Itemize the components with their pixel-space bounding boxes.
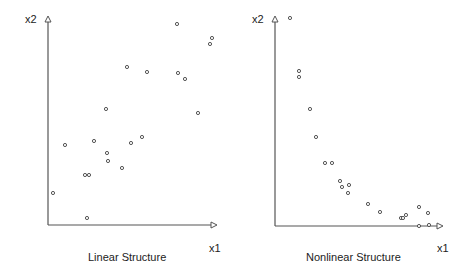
x-axis-arrow-icon <box>437 223 443 229</box>
nonlinear-structure-panel: x2 x1 Nonlinear Structure <box>0 0 469 278</box>
data-point <box>340 185 343 188</box>
data-point <box>417 205 420 208</box>
data-point <box>417 224 420 227</box>
data-point <box>314 135 317 138</box>
y-axis-arrow-icon <box>272 16 278 22</box>
data-point <box>426 211 429 214</box>
data-point <box>297 75 300 78</box>
data-point <box>347 183 350 186</box>
data-point <box>308 107 311 110</box>
chart-title: Nonlinear Structure <box>306 251 401 263</box>
data-point <box>288 16 291 19</box>
nonlinear-scatter-plot <box>0 0 469 278</box>
data-point <box>330 161 333 164</box>
data-point <box>338 179 341 182</box>
data-point <box>427 223 430 226</box>
data-point <box>323 161 326 164</box>
data-point <box>346 191 349 194</box>
data-point <box>297 69 300 72</box>
y-axis-label: x2 <box>252 13 264 25</box>
data-point <box>378 210 381 213</box>
data-point <box>404 213 407 216</box>
data-point <box>366 202 369 205</box>
data-point <box>401 216 404 219</box>
x-axis-label: x1 <box>437 242 449 254</box>
